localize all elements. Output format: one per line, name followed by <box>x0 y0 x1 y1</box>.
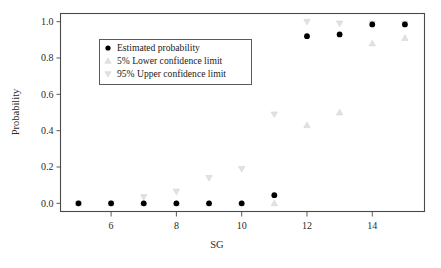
legend-label: Estimated probability <box>117 42 200 53</box>
x-tick-label: 8 <box>174 220 179 231</box>
data-point <box>173 189 179 195</box>
y-tick-label: 0.4 <box>41 125 54 136</box>
data-point <box>337 31 343 37</box>
legend-label: 95% Upper confidence limit <box>117 68 226 79</box>
data-point <box>76 200 82 206</box>
data-point <box>141 195 147 201</box>
x-axis-ticks: 68101214 <box>109 212 378 231</box>
data-point <box>304 33 310 39</box>
chart-legend: Estimated probability5% Lower confidence… <box>100 40 252 85</box>
data-point <box>206 175 212 181</box>
data-point <box>271 112 277 118</box>
y-tick-label: 0.2 <box>41 161 54 172</box>
data-point <box>402 35 408 41</box>
data-point <box>271 192 277 198</box>
data-point <box>173 200 179 206</box>
y-axis-title: Probability <box>10 88 21 135</box>
data-point <box>239 200 245 206</box>
x-axis-title: SG <box>210 239 224 250</box>
data-point <box>369 21 375 27</box>
data-point <box>304 19 310 25</box>
data-point <box>238 166 244 172</box>
y-tick-label: 0.8 <box>41 52 54 63</box>
legend-label: 5% Lower confidence limit <box>117 55 223 66</box>
legend-marker <box>105 45 110 50</box>
data-point <box>206 200 212 206</box>
data-point <box>141 200 147 206</box>
data-point <box>402 21 408 27</box>
chart-figure: 0.00.20.40.60.81.0 68101214 SG Probabili… <box>0 0 441 268</box>
x-tick-label: 12 <box>302 220 312 231</box>
probability-scatter-chart: 0.00.20.40.60.81.0 68101214 SG Probabili… <box>0 0 441 268</box>
data-point <box>304 122 310 128</box>
y-tick-label: 0.0 <box>41 198 54 209</box>
x-tick-label: 6 <box>109 220 114 231</box>
data-point <box>108 200 114 206</box>
y-axis-ticks: 0.00.20.40.60.81.0 <box>41 16 61 209</box>
y-tick-label: 1.0 <box>41 16 54 27</box>
x-tick-label: 10 <box>237 220 247 231</box>
x-tick-label: 14 <box>367 220 377 231</box>
data-point <box>369 40 375 46</box>
data-point <box>336 109 342 115</box>
data-point <box>271 200 277 206</box>
data-point <box>336 21 342 27</box>
y-tick-label: 0.6 <box>41 89 54 100</box>
